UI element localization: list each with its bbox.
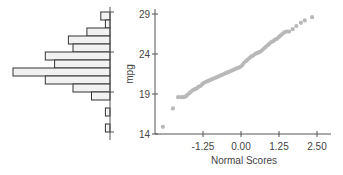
histogram-bar <box>73 84 110 92</box>
histogram-bar <box>101 12 110 20</box>
x-tick-label: 0.00 <box>231 141 251 152</box>
histogram-bar <box>45 76 110 84</box>
histogram-bar <box>55 60 110 68</box>
histogram-ticks <box>110 12 114 132</box>
data-point <box>291 27 295 31</box>
histogram-bar <box>105 108 110 116</box>
y-tick-label: 24 <box>139 49 151 60</box>
data-point <box>171 106 175 110</box>
histogram-bar <box>105 20 110 28</box>
y-tick-label: 29 <box>139 9 151 20</box>
y-tick-label: 19 <box>139 89 151 100</box>
x-tick-label: 2.50 <box>307 141 327 152</box>
histogram-bar <box>13 68 110 76</box>
data-point <box>310 15 314 19</box>
y-tick-label: 14 <box>139 129 151 140</box>
histogram-bar <box>73 44 110 52</box>
y-axis-title: mpg <box>124 64 135 83</box>
normal-probability-points <box>161 15 314 129</box>
x-tick-label: 1.25 <box>269 141 289 152</box>
x-axis-title: Normal Scores <box>211 155 277 166</box>
histogram-bar <box>87 28 110 36</box>
data-point <box>161 125 165 129</box>
data-point <box>299 21 303 25</box>
data-point <box>294 24 298 28</box>
histogram-bar <box>68 36 110 44</box>
chart-canvas: mpg 29 24 19 14 -1.25 0.00 1.25 2.50 Nor… <box>0 0 343 175</box>
histogram-bar <box>105 124 110 132</box>
histogram-bar <box>45 52 110 60</box>
histogram-bar <box>92 92 111 100</box>
x-tick-label: -1.25 <box>192 141 215 152</box>
data-point <box>287 30 291 34</box>
mpg-histogram <box>13 12 110 132</box>
data-point <box>303 18 307 22</box>
